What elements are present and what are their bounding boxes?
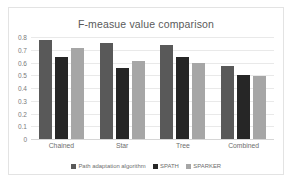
bar-group	[92, 37, 153, 139]
legend-swatch-icon	[186, 164, 191, 169]
chart-figure: F-measue value comparison 00.10.20.30.40…	[0, 0, 292, 188]
legend-item[interactable]: SPARKER	[186, 163, 221, 169]
bar	[253, 76, 266, 139]
y-axis-tick-label: 0.4	[18, 85, 27, 92]
x-axis-tick-label: Chained	[31, 142, 92, 149]
bar	[237, 75, 250, 139]
legend-item[interactable]: SPATH	[153, 163, 179, 169]
bar-group	[153, 37, 214, 139]
bar	[71, 48, 84, 139]
bar-groups	[31, 37, 274, 139]
legend-item[interactable]: Path adaptation algorithm	[71, 163, 146, 169]
bar	[160, 45, 173, 139]
chart-legend: Path adaptation algorithmSPATHSPARKER	[9, 163, 283, 169]
bar	[221, 66, 234, 139]
plot-area: 00.10.20.30.40.50.60.70.8	[31, 37, 274, 139]
x-axis-labels: ChainedStarTreeCombined	[31, 142, 274, 149]
bar	[55, 57, 68, 139]
y-axis-tick-label: 0	[23, 136, 27, 143]
x-axis-tick-label: Star	[92, 142, 153, 149]
legend-label: Path adaptation algorithm	[78, 163, 145, 169]
bar	[116, 68, 129, 139]
legend-swatch-icon	[153, 164, 158, 169]
bar-group	[213, 37, 274, 139]
bar	[100, 43, 113, 139]
x-axis-tick-label: Tree	[153, 142, 214, 149]
bar	[192, 63, 205, 140]
chart-plot-frame: F-measue value comparison 00.10.20.30.40…	[8, 7, 284, 175]
y-axis-tick-label: 0.7	[18, 46, 27, 53]
y-axis-tick-label: 0.3	[18, 97, 27, 104]
y-axis-tick-label: 0.6	[18, 59, 27, 66]
y-axis-tick-label: 0.5	[18, 72, 27, 79]
bar	[176, 57, 189, 139]
y-axis-tick-label: 0.2	[18, 110, 27, 117]
legend-label: SPATH	[160, 163, 179, 169]
legend-label: SPARKER	[193, 163, 221, 169]
y-axis-tick-label: 0.1	[18, 123, 27, 130]
bar-group	[31, 37, 92, 139]
y-axis-tick-label: 0.8	[18, 34, 27, 41]
bar	[132, 61, 145, 139]
legend-swatch-icon	[71, 164, 76, 169]
x-axis-tick-label: Combined	[213, 142, 274, 149]
bar	[39, 40, 52, 139]
gridline	[31, 139, 274, 140]
chart-title: F-measue value comparison	[9, 18, 283, 30]
